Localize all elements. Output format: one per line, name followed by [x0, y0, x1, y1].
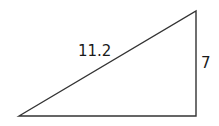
right-triangle — [19, 11, 196, 116]
hypotenuse-label: 11.2 — [78, 42, 111, 60]
vertical-leg-label: 7 — [201, 54, 211, 72]
triangle-diagram: 11.2 7 — [0, 0, 219, 126]
